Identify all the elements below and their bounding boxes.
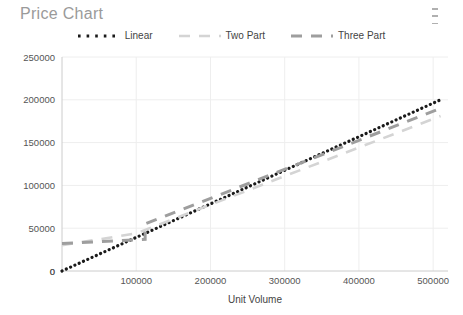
y-axis-tick-label: 100000 — [23, 180, 55, 191]
x-axis-tick-label: 100000 — [120, 275, 152, 286]
x-axis-title: Unit Volume — [228, 294, 282, 305]
plot-area: 0500001000001500002000002500000100000200… — [0, 0, 463, 315]
x-axis-tick-label: 400000 — [343, 275, 375, 286]
x-axis-tick-label: 300000 — [269, 275, 301, 286]
y-axis-tick-label: 250000 — [23, 52, 55, 63]
y-axis-tick-label: 150000 — [23, 137, 55, 148]
series-line-two-part[interactable] — [62, 116, 441, 245]
price-chart-card: Price Chart LinearTwo PartThree Part 050… — [0, 0, 463, 315]
series-line-three-part[interactable] — [62, 108, 441, 243]
y-axis-tick-label: 200000 — [23, 94, 55, 105]
chart-svg: 0500001000001500002000002500000100000200… — [0, 0, 463, 315]
x-axis-tick-label: 0 — [50, 266, 55, 277]
y-axis-tick-label: 50000 — [29, 223, 55, 234]
x-axis-tick-label: 500000 — [417, 275, 449, 286]
x-axis-tick-label: 200000 — [195, 275, 227, 286]
